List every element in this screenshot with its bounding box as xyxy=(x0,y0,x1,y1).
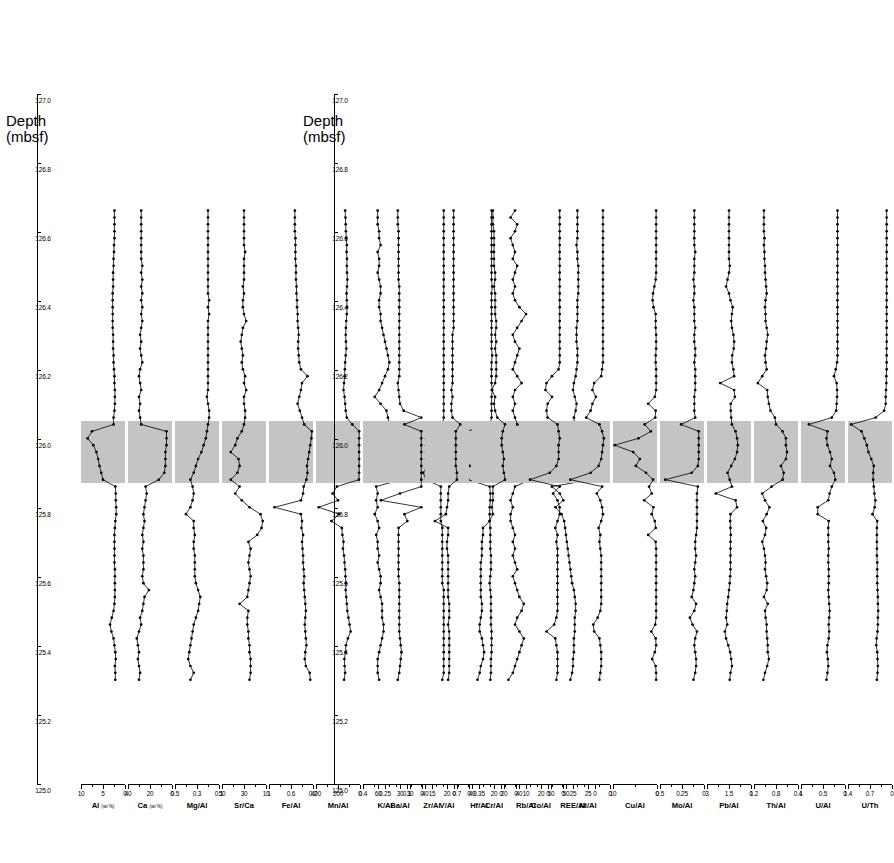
depth-axis-tick xyxy=(37,784,41,785)
value-axis-tick xyxy=(798,785,799,789)
value-axis-tick xyxy=(150,785,151,789)
depth-axis-label: 125.4 xyxy=(332,650,348,657)
depth-axis-tick xyxy=(37,715,41,716)
depth-axis-label: 125.0 xyxy=(332,788,348,795)
value-axis-tick xyxy=(566,785,567,789)
value-axis-tick xyxy=(740,785,741,788)
value-axis-tick xyxy=(729,785,730,789)
value-axis-tick xyxy=(483,785,484,788)
data-trace xyxy=(707,95,751,785)
panel-co-al: 02040Co/Al xyxy=(519,95,563,785)
value-axis-label: 3 xyxy=(705,791,708,797)
value-axis-label: 20 xyxy=(491,791,498,797)
depth-axis-tick xyxy=(334,301,338,302)
panel-group-lower: 03060Ba/Al02040V/Al02040Cr/Al02040Co/Al0… xyxy=(297,0,593,863)
value-axis-tick xyxy=(693,785,694,788)
data-trace xyxy=(660,95,704,785)
panel-mg-al: 0.10.30.5Mg/Al xyxy=(175,95,219,785)
value-axis-tick xyxy=(845,785,846,789)
depth-axis-label: 125.2 xyxy=(332,719,348,726)
value-axis-tick xyxy=(657,785,658,789)
value-axis-tick xyxy=(280,785,281,788)
value-axis-label: 40 xyxy=(469,791,476,797)
value-axis-tick xyxy=(595,785,596,789)
panel-mo-al: 00.250.5Mo/Al xyxy=(660,95,704,785)
depth-axis-label: 126.6 xyxy=(35,236,51,243)
value-axis-tick xyxy=(161,785,162,788)
panel-cr-al: 02040Cr/Al xyxy=(472,95,516,785)
panel-title: Al (wt %) xyxy=(92,801,115,810)
value-axis-tick xyxy=(422,785,423,789)
data-trace xyxy=(472,95,516,785)
value-axis-tick xyxy=(208,785,209,788)
value-axis-label: 0.5 xyxy=(656,791,664,797)
data-trace xyxy=(175,95,219,785)
value-axis-label: 40 xyxy=(125,791,132,797)
value-axis-tick xyxy=(291,785,292,789)
value-axis-tick xyxy=(718,785,719,788)
panel-u-th: 00.71.4U/Th xyxy=(848,95,892,785)
value-axis-tick xyxy=(765,785,766,788)
value-axis-label: 20 xyxy=(147,791,154,797)
value-axis-tick xyxy=(870,785,871,789)
value-axis-tick xyxy=(588,785,589,789)
value-axis-label: 40 xyxy=(422,791,429,797)
panel-sr-ca: 103050Sr/Ca xyxy=(222,95,266,785)
value-axis-tick xyxy=(754,785,755,789)
value-axis-tick xyxy=(219,785,220,789)
value-axis-tick xyxy=(139,785,140,788)
value-axis-label: 10 xyxy=(78,791,85,797)
value-axis-tick xyxy=(255,785,256,788)
value-axis-tick xyxy=(707,785,708,789)
panel-pb-al: 01.53Pb/Al xyxy=(707,95,751,785)
value-axis-label: 60 xyxy=(375,791,382,797)
panel-title: Cu/Al xyxy=(625,801,645,810)
depth-axis-tick xyxy=(37,577,41,578)
value-axis-label: 20 xyxy=(538,791,545,797)
value-axis-label: 1.5 xyxy=(725,791,733,797)
depth-axis-label: 125.2 xyxy=(35,719,51,726)
value-axis-tick xyxy=(269,785,270,789)
value-axis-label: 50 xyxy=(563,791,570,797)
value-axis-label: 5 xyxy=(101,791,104,797)
value-axis-label: 1.4 xyxy=(844,791,852,797)
value-axis-tick xyxy=(635,785,636,788)
value-axis-tick xyxy=(530,785,531,788)
data-trace xyxy=(425,95,469,785)
value-axis-tick xyxy=(519,785,520,789)
depth-axis-tick xyxy=(37,163,41,164)
value-axis-tick xyxy=(389,785,390,788)
depth-axis-title: Depth (mbsf) xyxy=(303,113,346,144)
data-trace xyxy=(801,95,845,785)
panel-title: Mo/Al xyxy=(672,801,693,810)
depth-axis-tick xyxy=(334,163,338,164)
depth-axis-tick xyxy=(37,370,41,371)
value-axis-tick xyxy=(458,785,459,788)
value-axis-tick xyxy=(472,785,473,789)
value-axis-tick xyxy=(563,785,564,789)
value-axis-tick xyxy=(892,785,893,789)
value-axis-label: 0.25 xyxy=(676,791,688,797)
depth-axis-label: 126.4 xyxy=(35,305,51,312)
panel-v-al: 02040V/Al xyxy=(425,95,469,785)
depth-axis-line xyxy=(37,95,38,785)
value-axis-tick xyxy=(881,785,882,788)
panel-cu-al: 010Cu/Al xyxy=(613,95,657,785)
panel-title: Th/Al xyxy=(767,801,786,810)
value-axis-tick xyxy=(81,785,82,789)
value-axis-label: 0.5 xyxy=(819,791,827,797)
value-axis-tick xyxy=(233,785,234,788)
value-axis-tick xyxy=(859,785,860,788)
value-axis-tick xyxy=(682,785,683,789)
panel-al: 0510Al (wt %) xyxy=(81,95,125,785)
value-axis-tick xyxy=(92,785,93,788)
value-axis-label: 0.7 xyxy=(866,791,874,797)
value-axis-label: 50 xyxy=(219,791,226,797)
value-axis-tick xyxy=(447,785,448,789)
value-axis-tick xyxy=(848,785,849,789)
panel-title: Sr/Ca xyxy=(234,801,254,810)
depth-axis-label: 126.2 xyxy=(35,374,51,381)
value-axis-tick xyxy=(244,785,245,789)
data-trace xyxy=(613,95,657,785)
value-axis-tick xyxy=(516,785,517,789)
